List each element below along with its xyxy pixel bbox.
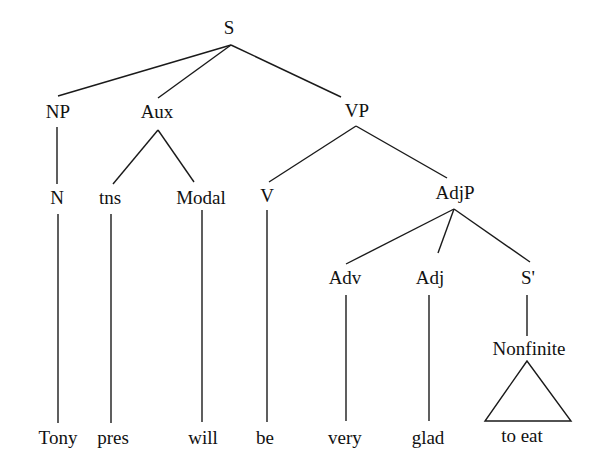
tree-edges [57,45,571,423]
node-np: NP [46,101,70,122]
node-n: N [50,187,64,208]
triangle-nonfinite-abbreviation [485,361,571,421]
node-v: V [260,185,274,206]
node-adv: Adv [329,267,362,288]
leaf-pres: pres [97,427,129,448]
node-adj: Adj [416,267,445,288]
leaf-will: will [188,427,218,448]
leaf-glad: glad [412,427,445,448]
edge-vp-v [269,126,356,182]
edge-adjp-sbar [454,209,530,262]
leaf-be: be [256,427,274,448]
node-vp: VP [345,100,369,121]
leaf-to-eat: to eat [501,425,543,446]
syntax-tree-diagram: S NP Aux VP N tns Modal V AdjP Adv Adj S… [0,0,609,471]
node-s-bar: S' [521,267,535,288]
leaf-very: very [328,427,362,448]
edge-adjp-adv [346,209,454,264]
edge-s-np [58,45,231,96]
edge-aux-tns [113,130,158,184]
edge-s-aux [158,45,231,98]
node-modal: Modal [176,187,226,208]
node-aux: Aux [141,101,174,122]
edge-s-vp [231,45,341,97]
node-nonfinite: Nonfinite [493,338,566,359]
edge-vp-adjp [356,126,447,178]
tree-node-labels: S NP Aux VP N tns Modal V AdjP Adv Adj S… [46,17,566,359]
node-s: S [224,17,235,38]
tree-leaf-labels: Tony pres will be very glad to eat [39,425,544,448]
node-adjp: AdjP [435,182,474,203]
node-tns: tns [99,187,121,208]
leaf-tony: Tony [39,427,78,448]
edge-aux-modal [158,130,194,182]
